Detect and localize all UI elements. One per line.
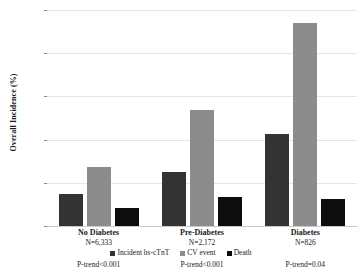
- y-axis-title: Overall Incidence (%): [9, 38, 18, 188]
- category-sample-size: N=826: [240, 238, 362, 248]
- legend-item-death[interactable]: Death: [227, 249, 252, 257]
- bar-diabetes-incident-hs-ctnt[interactable]: [265, 134, 289, 226]
- x-axis-category-label: DiabetesN=826: [240, 228, 362, 248]
- bar-diabetes-death[interactable]: [321, 199, 345, 226]
- legend-swatch-icon: [180, 251, 185, 256]
- bar-no-diabetes-incident-hs-ctnt[interactable]: [59, 194, 83, 226]
- bar-pre-diabetes-cv-event[interactable]: [190, 110, 214, 226]
- bar-pre-diabetes-incident-hs-ctnt[interactable]: [162, 172, 186, 226]
- p-trend-annotation: P-trend<0.001: [47, 261, 150, 269]
- legend-item-incident-hs-ctnt[interactable]: Incident hs-cTnT: [110, 249, 169, 257]
- category-name: Diabetes: [240, 228, 362, 238]
- p-trend-annotation: P-trend<0.001: [150, 261, 253, 269]
- legend-swatch-icon: [227, 251, 232, 256]
- plot-area: 25%20%15%10%5%0%: [47, 10, 357, 226]
- bar-chart-figure: Overall Incidence (%) 25%20%15%10%5%0% I…: [0, 0, 362, 276]
- p-trend-annotation: P-trend=0.04: [254, 261, 357, 269]
- y-axis-tick-mark: [44, 96, 47, 97]
- y-axis-tick-mark: [44, 53, 47, 54]
- legend-item-cv-event[interactable]: CV event: [180, 249, 215, 257]
- bar-no-diabetes-cv-event[interactable]: [87, 167, 111, 226]
- chart-legend: Incident hs-cTnTCV eventDeath: [0, 249, 362, 257]
- legend-label: CV event: [187, 249, 215, 257]
- legend-label: Incident hs-cTnT: [117, 249, 169, 257]
- y-axis-tick-mark: [44, 10, 47, 11]
- bar-pre-diabetes-death[interactable]: [218, 197, 242, 226]
- bar-diabetes-cv-event[interactable]: [293, 23, 317, 226]
- legend-swatch-icon: [110, 251, 115, 256]
- gridline: [47, 226, 357, 227]
- y-axis-tick-mark: [44, 226, 47, 227]
- legend-label: Death: [234, 249, 252, 257]
- gridline: [47, 10, 357, 11]
- p-trend-row: P-trend<0.001P-trend<0.001P-trend=0.04: [47, 261, 357, 269]
- y-axis-tick-mark: [44, 183, 47, 184]
- y-axis-tick-mark: [44, 140, 47, 141]
- bar-no-diabetes-death[interactable]: [115, 208, 139, 226]
